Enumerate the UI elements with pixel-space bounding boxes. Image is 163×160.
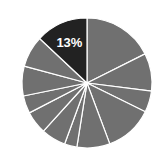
- pie-chart: 13%: [0, 0, 163, 160]
- pie-labels: 13%: [56, 35, 82, 50]
- pie-slices: [22, 18, 152, 148]
- slice-percent-label: 13%: [56, 35, 82, 50]
